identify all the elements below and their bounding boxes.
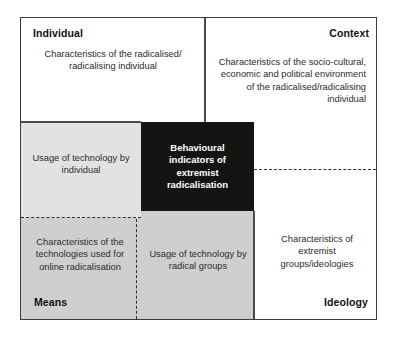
- diagram-canvas: Individual Characteristics of the radica…: [0, 0, 396, 340]
- quadrant-label-ideology: Ideology: [324, 296, 368, 308]
- quadrant-label-means: Means: [34, 296, 67, 308]
- center-box-behavioural-indicators: Behavioural indicators of extremist radi…: [141, 122, 254, 211]
- overlap-cell-usage-by-radical-groups: Usage of technology by radical groups: [146, 248, 250, 273]
- quadrant-label-context: Context: [329, 27, 369, 39]
- quadrant-body-means: Characteristics of the technologies used…: [24, 236, 136, 273]
- quadrant-body-context: Characteristics of the socio-cultural, e…: [216, 56, 366, 106]
- divider-vertical-top: [204, 18, 206, 122]
- divider-vertical-bottom: [253, 211, 255, 319]
- divider-horizontal-left: [21, 121, 141, 123]
- dashed-divider-vertical-lower: [136, 219, 137, 319]
- overlap-cell-usage-by-individual: Usage of technology by individual: [25, 152, 137, 177]
- quadrant-body-ideology: Characteristics of extremist groups/ideo…: [264, 233, 370, 270]
- shaded-region-connector: [141, 211, 253, 219]
- quadrant-label-individual: Individual: [33, 27, 83, 39]
- quadrant-body-individual: Characteristics of the radicalised/ radi…: [33, 48, 193, 73]
- center-box-text: Behavioural indicators of extremist radi…: [141, 142, 254, 192]
- dashed-divider-horizontal-left: [21, 217, 141, 218]
- dashed-divider-horizontal-right: [254, 169, 376, 170]
